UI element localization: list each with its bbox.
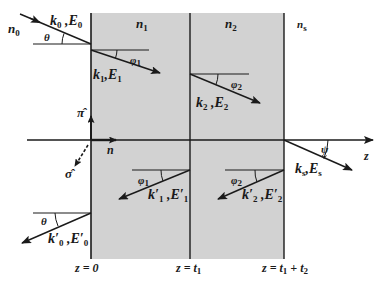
normal-vector-label: n	[107, 143, 114, 157]
reflected-wave-label: k′0 ,E′0	[48, 231, 89, 248]
interface-z0-label: z = 0	[74, 261, 99, 275]
theta-arc-incident	[62, 34, 64, 45]
pi-hat-label: π̂	[77, 105, 87, 120]
medium-ns-label: ns	[297, 18, 307, 33]
interface-zt1t2-label: z = t1 + t2	[261, 261, 309, 276]
transmitted-wave-label: ks,Es	[295, 161, 322, 178]
medium-n0-label: n0	[8, 21, 20, 38]
layer2-backward-wave-label: k′2 ,E′2	[242, 187, 283, 204]
interface-zt1-label: z = t1	[175, 261, 202, 276]
theta-arc-reflected	[55, 213, 58, 226]
multilayer-diagram: n0 n1 n2 ns k0 ,E0 θ k1,E1 φ1 k2 ,E2 φ2 …	[0, 0, 386, 291]
incident-wave-label: k0 ,E0	[50, 13, 83, 30]
sigma-hat-vector	[75, 145, 88, 166]
theta-incident-label: θ	[44, 31, 50, 43]
psi-label: ψ	[321, 143, 329, 155]
z-axis-label: z	[363, 149, 369, 163]
layer1-backward-wave-label: k′1 ,E′1	[148, 187, 189, 204]
layer-2-region	[190, 13, 284, 259]
sigma-hat-label: σ̂	[65, 166, 75, 181]
theta-reflected-label: θ	[41, 215, 47, 227]
